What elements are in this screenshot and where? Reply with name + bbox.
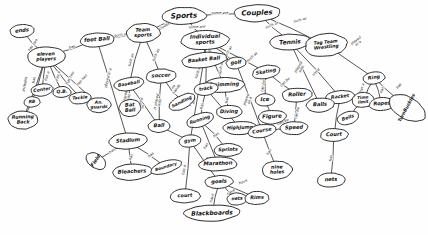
edge-football-to-elevenplayers xyxy=(62,45,82,52)
node-balls[interactable]: Balls xyxy=(306,98,334,112)
svg-text:can be: can be xyxy=(279,76,291,88)
node-stadium[interactable]: Stadium xyxy=(109,133,147,149)
node-outline-bells xyxy=(337,111,358,124)
edge-sports-to-individual xyxy=(191,24,197,31)
edge-track-to-running xyxy=(201,95,204,113)
edge-label-soccer-handling: nohandsnohands xyxy=(169,81,182,94)
node-boundary[interactable]: Boundary xyxy=(151,160,182,175)
svg-text:nohands: nohands xyxy=(169,81,182,94)
svg-text:nohands: nohands xyxy=(169,81,182,94)
node-ball[interactable]: Ball xyxy=(148,120,170,133)
edge-label-elevenplayers-rb: hashas xyxy=(31,76,36,83)
node-outline-football xyxy=(80,33,114,47)
node-running[interactable]: Running xyxy=(187,112,213,127)
svg-text:has: has xyxy=(203,142,210,150)
node-outline-field xyxy=(86,153,105,170)
edge-label-stadium-bleachers: hashas xyxy=(128,153,134,160)
node-outline-diving xyxy=(217,105,242,118)
edge-ring-to-ropes xyxy=(376,84,380,98)
node-outline-anguards xyxy=(87,98,111,113)
node-baseball[interactable]: Baseball xyxy=(114,77,144,91)
node-outline-tennis xyxy=(270,34,311,50)
node-ends[interactable]: ends xyxy=(10,24,34,37)
node-nets[interactable]: nets xyxy=(318,173,346,187)
node-bells[interactable]: Bells xyxy=(337,111,358,124)
edge-speed-to-course xyxy=(276,129,280,130)
node-nineholes[interactable]: nineholes xyxy=(263,161,293,179)
node-outline-handling xyxy=(169,93,194,110)
edge-label-elevenplayers-runningback: includesincludes xyxy=(22,76,29,91)
node-runningback[interactable]: RunningBack xyxy=(8,111,38,129)
node-turnbuckles[interactable]: TurnBuckles xyxy=(390,93,426,123)
node-tagteam[interactable]: Tag TeamWrestling xyxy=(306,33,348,56)
node-sprints[interactable]: Sprints xyxy=(214,144,242,157)
concept-map-svg: some aresome aresome aresome areincludes… xyxy=(0,0,428,235)
node-ring[interactable]: Ring xyxy=(363,72,385,84)
node-elevenplayers[interactable]: elevenplayers xyxy=(28,47,65,67)
node-golf[interactable]: golf xyxy=(226,57,246,69)
svg-text:such as: such as xyxy=(293,16,307,23)
edge-teamsports-to-soccer xyxy=(147,42,158,69)
node-field[interactable]: Field xyxy=(86,153,105,170)
edge-soccer-to-handling xyxy=(166,82,178,96)
node-outline-marathon xyxy=(199,157,237,171)
node-outline-couples xyxy=(234,5,279,22)
svg-text:has: has xyxy=(203,142,210,150)
edge-goals-to-netsb xyxy=(225,188,232,194)
edge-timelimit-to-bells xyxy=(354,107,358,112)
edge-label-elevenplayers-anguards: has twohas two xyxy=(76,73,89,87)
edge-soccer-to-ball xyxy=(159,83,161,119)
edge-running-to-marathon xyxy=(202,126,215,157)
edge-stadium-to-field xyxy=(102,148,116,157)
svg-text:has two: has two xyxy=(76,73,89,87)
edge-running-to-sprints xyxy=(205,125,223,144)
node-qb[interactable]: Q.B. xyxy=(53,87,71,98)
node-teamsports[interactable]: Teamsports xyxy=(126,23,160,42)
node-outline-speed xyxy=(280,122,308,135)
node-tennis[interactable]: Tennis xyxy=(270,34,311,50)
node-rims[interactable]: Rims xyxy=(245,191,269,204)
edge-swimming-to-diving xyxy=(225,92,227,105)
node-basketball[interactable]: Basket Ball xyxy=(182,52,228,68)
svg-text:such as: such as xyxy=(246,51,259,63)
edge-racket-to-court xyxy=(335,104,339,129)
nodes-layer: SportsCouplesIndividualsportsTeamsportsf… xyxy=(8,5,425,222)
node-anguards[interactable]: An.guards xyxy=(87,98,111,113)
node-roller[interactable]: Roller xyxy=(282,88,312,102)
node-outline-soccer xyxy=(146,69,176,83)
node-batball[interactable]: BatBall xyxy=(119,99,141,116)
node-outline-batball xyxy=(119,99,141,116)
node-netsb[interactable]: nets xyxy=(227,193,247,205)
node-outline-rb xyxy=(24,97,40,108)
edge-label-couples-tagteam: such assuch as xyxy=(293,16,307,23)
edge-stadium-to-bleachers xyxy=(129,149,131,164)
edge-skating-to-ice xyxy=(265,79,266,94)
node-speed[interactable]: Speed xyxy=(280,122,308,135)
node-soccer[interactable]: soccer xyxy=(146,69,176,83)
svg-text:has a: has a xyxy=(44,71,51,81)
node-blackboards[interactable]: Blackboards xyxy=(184,205,240,221)
node-courtb[interactable]: court xyxy=(170,189,200,203)
node-ice[interactable]: Ice xyxy=(255,94,275,106)
node-football[interactable]: foot Ball xyxy=(80,33,114,47)
svg-text:includes: includes xyxy=(22,76,29,91)
node-outline-ring xyxy=(363,72,385,84)
node-individual[interactable]: Individualsports xyxy=(181,30,230,49)
node-handling[interactable]: handling xyxy=(169,93,194,110)
node-marathon[interactable]: Marathon xyxy=(199,157,237,171)
node-court[interactable]: Court xyxy=(321,129,349,142)
edge-label-goals-rims: havehave xyxy=(238,178,248,185)
node-couples[interactable]: Couples xyxy=(234,5,279,22)
node-track[interactable]: track xyxy=(194,83,218,96)
node-sports[interactable]: Sports xyxy=(162,8,206,25)
node-center[interactable]: Center xyxy=(31,84,53,96)
edge-court-to-nets xyxy=(331,142,333,173)
edge-label-individual-skating: such assuch as xyxy=(246,51,259,63)
node-rb[interactable]: RB xyxy=(24,97,40,108)
svg-text:includes: includes xyxy=(22,76,29,91)
node-bleachers[interactable]: Bleachers xyxy=(113,164,153,180)
edge-tagteam-to-ring xyxy=(338,53,367,73)
node-diving[interactable]: Diving xyxy=(217,105,242,118)
edge-sports-to-teamsports xyxy=(157,22,168,27)
node-gym[interactable]: gym xyxy=(179,135,201,147)
